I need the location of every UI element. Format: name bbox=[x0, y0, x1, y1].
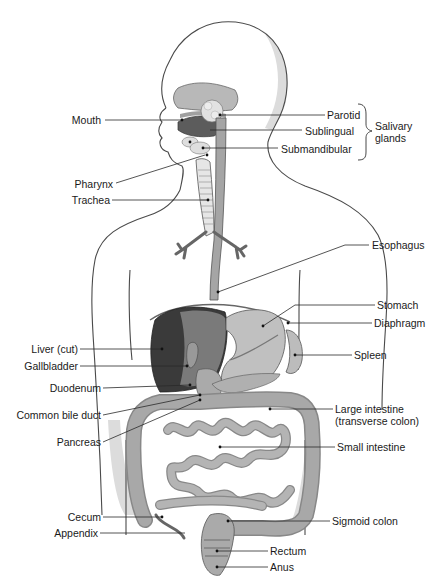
label-transverse-colon: (transverse colon) bbox=[335, 415, 419, 427]
label-diaphragm: Diaphragm bbox=[374, 317, 425, 329]
label-anus: Anus bbox=[270, 561, 294, 573]
label-appendix: Appendix bbox=[54, 527, 98, 539]
label-submandibular: Submandibular bbox=[281, 143, 352, 155]
label-spleen: Spleen bbox=[354, 349, 387, 361]
label-sublingual: Sublingual bbox=[305, 125, 354, 137]
label-small-intestine: Small intestine bbox=[337, 441, 405, 453]
spleen bbox=[286, 330, 302, 374]
digestive-system-illustration bbox=[0, 0, 441, 584]
label-pharynx: Pharynx bbox=[74, 178, 113, 190]
label-large-intestine: Large intestine bbox=[335, 403, 404, 415]
label-stomach: Stomach bbox=[377, 299, 418, 311]
label-sigmoid-colon: Sigmoid colon bbox=[332, 515, 398, 527]
label-duodenum: Duodenum bbox=[50, 382, 101, 394]
bronchi bbox=[176, 232, 246, 258]
label-pancreas: Pancreas bbox=[57, 436, 101, 448]
label-salivary-glands-1: Salivary bbox=[375, 120, 412, 132]
appendix bbox=[156, 515, 184, 538]
label-cecum: Cecum bbox=[68, 511, 101, 523]
label-liver: Liver (cut) bbox=[31, 343, 78, 355]
label-mouth: Mouth bbox=[72, 114, 101, 126]
label-parotid: Parotid bbox=[327, 109, 360, 121]
label-gallbladder: Gallbladder bbox=[24, 360, 78, 372]
label-trachea: Trachea bbox=[72, 194, 110, 206]
label-salivary-glands-2: glands bbox=[375, 132, 406, 144]
small-intestine bbox=[160, 423, 290, 506]
label-common-bile-duct: Common bile duct bbox=[16, 409, 101, 421]
label-rectum: Rectum bbox=[270, 545, 306, 557]
label-esophagus: Esophagus bbox=[372, 239, 425, 251]
trachea bbox=[196, 159, 214, 236]
